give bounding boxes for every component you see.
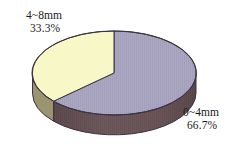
- pie-label-4-8mm-name: 4~8mm: [26, 9, 62, 22]
- pie-label-4-8mm: 4~8mm 33.3%: [26, 9, 62, 34]
- pie-label-0-4mm-percent: 66.7%: [183, 119, 219, 132]
- pie-label-4-8mm-percent: 33.3%: [26, 22, 62, 35]
- pie-chart-figure: 4~8mm 33.3% 0~4mm 66.7%: [0, 0, 234, 152]
- pie-label-0-4mm: 0~4mm 66.7%: [183, 106, 219, 131]
- pie-label-0-4mm-name: 0~4mm: [183, 106, 219, 119]
